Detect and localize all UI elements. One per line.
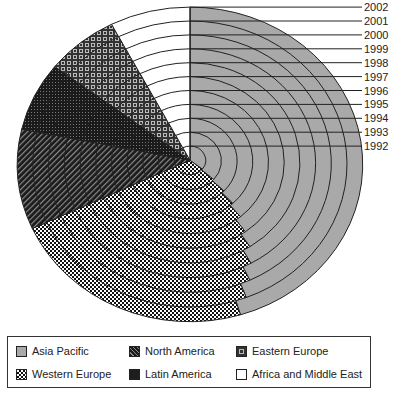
legend-label: North America <box>145 345 215 357</box>
legend-item-north-america: North America <box>129 344 215 358</box>
year-label-1998: 1998 <box>364 57 388 69</box>
legend-item-western-europe: Western Europe <box>16 367 111 381</box>
legend-label: Western Europe <box>32 368 111 380</box>
eastern-europe-swatch-icon <box>236 346 247 357</box>
concentric-pie-chart: 1992199319941995199619971998199920002001… <box>0 0 405 335</box>
legend-item-asia-pacific: Asia Pacific <box>16 344 89 358</box>
year-label-2001: 2001 <box>364 15 388 27</box>
legend: Asia Pacific North America Eastern Europ… <box>7 336 371 388</box>
western-europe-swatch-icon <box>16 369 27 380</box>
year-label-1992: 1992 <box>364 140 388 152</box>
north-america-swatch-icon <box>129 346 140 357</box>
year-label-1996: 1996 <box>364 85 388 97</box>
year-label-1997: 1997 <box>364 71 388 83</box>
year-label-1995: 1995 <box>364 98 388 110</box>
legend-label: Eastern Europe <box>252 345 328 357</box>
legend-item-latin-america: Latin America <box>129 367 212 381</box>
year-label-2002: 2002 <box>364 1 388 13</box>
latin-america-swatch-icon <box>129 369 140 380</box>
legend-item-eastern-europe: Eastern Europe <box>236 344 328 358</box>
year-label-1999: 1999 <box>364 43 388 55</box>
legend-label: Africa and Middle East <box>252 368 362 380</box>
year-label-1994: 1994 <box>364 112 388 124</box>
legend-label: Asia Pacific <box>32 345 89 357</box>
year-label-1993: 1993 <box>364 126 388 138</box>
year-label-2000: 2000 <box>364 29 388 41</box>
africa-middle-east-swatch-icon <box>236 369 247 380</box>
legend-label: Latin America <box>145 368 212 380</box>
legend-item-africa-middle-east: Africa and Middle East <box>236 367 362 381</box>
asia-pacific-swatch-icon <box>16 346 27 357</box>
